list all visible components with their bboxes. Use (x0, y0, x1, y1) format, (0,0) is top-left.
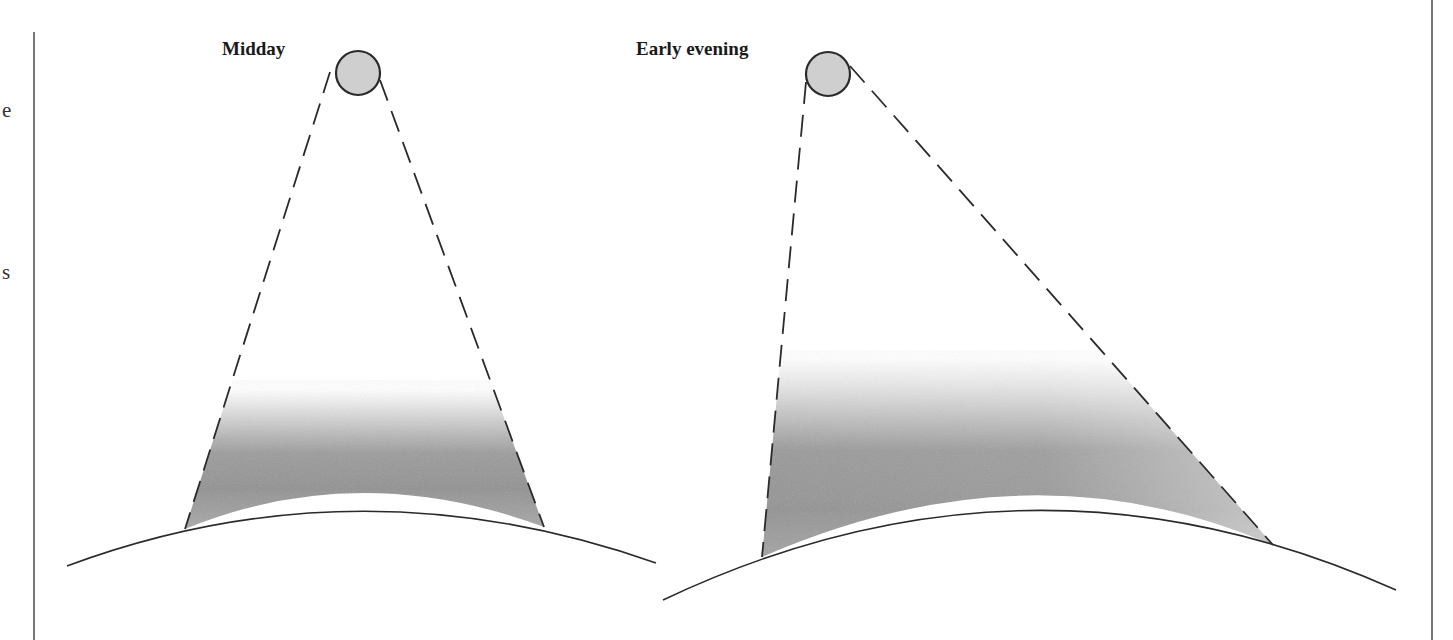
label-midday: Midday (222, 38, 285, 60)
midday-sun-icon (336, 51, 380, 95)
midday-earth-surface (67, 511, 656, 566)
evening-light-shading (755, 350, 1280, 565)
panel-midday (67, 51, 656, 566)
panel-early-evening (663, 52, 1396, 600)
diagram-figure: e s (0, 0, 1453, 640)
label-early-evening: Early evening (636, 38, 748, 60)
sunlight-angle-diagram (0, 0, 1453, 640)
midday-light-shading (180, 380, 550, 540)
evening-sun-icon (806, 52, 850, 96)
